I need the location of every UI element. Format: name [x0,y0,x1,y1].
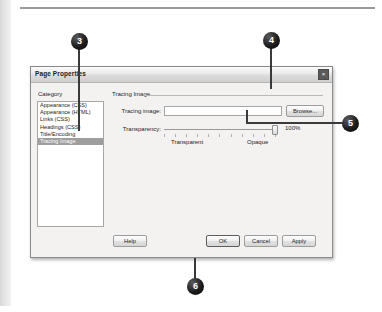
window-controls: × [318,69,329,80]
category-item-headings-css[interactable]: Headings (CSS) [38,124,103,131]
close-icon[interactable]: × [318,69,329,80]
apply-button[interactable]: Apply [282,235,316,247]
page-properties-dialog: Page Properties × Category Appearance (C… [30,66,333,258]
transparency-label: Transparency: [115,126,161,132]
callout-4-leader-line [270,47,272,89]
ok-button[interactable]: OK [206,235,240,247]
callout-badge-6: 6 [187,278,204,295]
dialog-body: Category Appearance (CSS) Appearance (HT… [31,83,332,259]
callout-5-leader-line [246,122,344,124]
callout-badge-3: 3 [71,33,88,50]
transparency-slider-track[interactable] [164,129,276,130]
page-edge [11,0,13,312]
transparency-value: 100% [285,125,300,131]
panel-title-rule [144,95,323,96]
category-item-title-encoding[interactable]: Title/Encoding [38,131,103,138]
callout-3-leader-line [78,48,80,131]
callout-5-leader-stem [246,110,248,123]
help-button[interactable]: Help [113,235,147,247]
slider-max-label: Opaque [247,139,268,145]
cancel-button[interactable]: Cancel [244,235,278,247]
transparency-slider-thumb[interactable] [272,125,278,135]
transparency-slider-ticks [164,134,276,137]
tracing-image-input[interactable] [164,106,282,116]
browse-button[interactable]: Browse... [286,105,324,117]
category-item-appearance-css[interactable]: Appearance (CSS) [38,102,103,109]
page-bottom-margin [0,306,382,312]
category-label: Category [38,91,62,97]
panel-title: Tracing Image [112,91,150,97]
callout-badge-4: 4 [263,32,280,49]
page-header-rule [20,7,375,9]
callout-6-leader-line [194,258,196,280]
category-list[interactable]: Appearance (CSS) Appearance (HTML) Links… [37,101,104,227]
dialog-titlebar[interactable]: Page Properties × [31,67,332,83]
tracing-image-label: Tracing image: [115,108,161,114]
category-item-links-css[interactable]: Links (CSS) [38,116,103,123]
slider-min-label: Transparent [171,139,203,145]
page-gutter-shadow [0,0,11,312]
category-item-appearance-html[interactable]: Appearance (HTML) [38,109,103,116]
callout-badge-5: 5 [342,115,359,132]
category-item-tracing-image[interactable]: Tracing Image [38,138,103,145]
